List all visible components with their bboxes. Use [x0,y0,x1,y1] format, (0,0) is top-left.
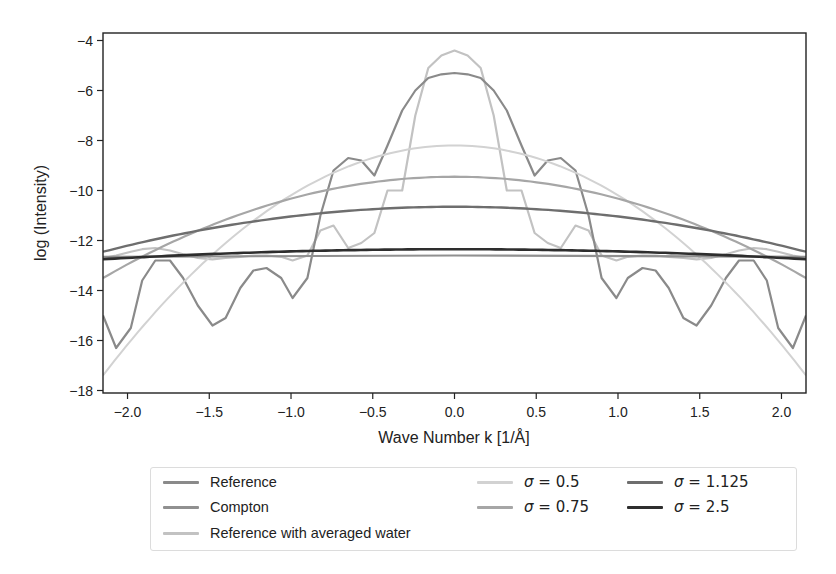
x-axis: −2.0−1.5−1.0−0.50.00.51.01.52.0 [114,393,792,420]
legend-item-reference: Reference [163,470,277,494]
legend-swatch-reference [163,481,199,484]
legend-swatch-reference-averaged-water [163,532,199,535]
sigma-value: = 2.5 [688,498,729,516]
series-line [103,177,806,278]
series-line [103,73,806,348]
legend-item-compton: Compton [163,495,269,519]
y-tick-label: −8 [77,133,93,149]
legend-label: σ = 0.75 [524,498,589,516]
legend-label: Compton [210,499,269,515]
x-tick-label: 0.0 [445,404,465,420]
x-tick-label: −1.5 [195,404,223,420]
y-tick-label: −10 [69,183,93,199]
legend-label: σ = 0.5 [524,473,580,491]
legend-item-sigma-2-5: σ = 2.5 [627,495,730,519]
y-tick-label: −16 [69,333,93,349]
sigma-value: = 1.125 [688,473,748,491]
legend-label: Reference [210,474,277,490]
y-tick-label: −18 [69,383,93,399]
x-tick-label: −2.0 [114,404,142,420]
x-tick-label: 1.5 [690,404,710,420]
legend-item-sigma-0-75: σ = 0.75 [477,495,589,519]
legend-swatch-compton [163,506,199,509]
legend-label: Reference with averaged water [210,525,411,541]
x-tick-label: −0.5 [359,404,387,420]
legend-item-sigma-1-125: σ = 1.125 [627,470,749,494]
x-tick-label: 2.0 [772,404,792,420]
x-tick-label: −1.0 [277,404,305,420]
chart-figure: −4−6−8−10−12−14−16−18 −2.0−1.5−1.0−0.50.… [0,0,836,574]
sigma-symbol: σ [674,498,684,516]
series-line [103,256,806,257]
legend-swatch-sigma-2-5 [627,506,663,509]
plot-frame [103,33,806,393]
legend-swatch-sigma-0-5 [477,481,513,484]
sigma-symbol: σ [674,473,684,491]
legend-item-reference-averaged-water: Reference with averaged water [163,521,411,545]
sigma-value: = 0.75 [538,498,589,516]
legend-swatch-sigma-0-75 [477,506,513,509]
x-axis-label: Wave Number k [1/Å] [378,428,529,446]
sigma-symbol: σ [524,473,534,491]
legend: Reference Compton Reference with average… [150,467,797,551]
sigma-symbol: σ [524,498,534,516]
legend-label: σ = 1.125 [674,473,749,491]
x-tick-label: 1.0 [608,404,628,420]
y-tick-label: −6 [77,83,93,99]
y-tick-label: −12 [69,233,93,249]
legend-item-sigma-0-5: σ = 0.5 [477,470,580,494]
y-tick-label: −14 [69,283,93,299]
y-axis-label: log (Intensity) [32,165,49,261]
series-layer [103,51,806,376]
series-line [103,207,806,252]
y-tick-label: −4 [77,33,93,49]
legend-label: σ = 2.5 [674,498,730,516]
legend-swatch-sigma-1-125 [627,481,663,484]
y-axis: −4−6−8−10−12−14−16−18 [69,33,103,399]
sigma-value: = 0.5 [538,473,579,491]
series-line [103,146,806,376]
x-tick-label: 0.5 [527,404,547,420]
